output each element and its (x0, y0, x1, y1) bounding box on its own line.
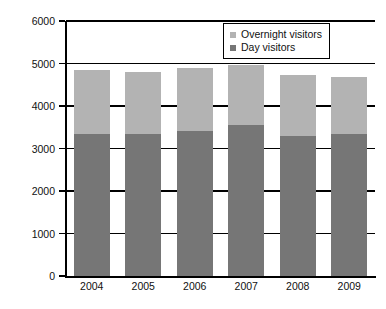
bar-segment-day-visitors[interactable] (331, 134, 367, 276)
bar-segment-overnight-visitors[interactable] (177, 68, 213, 131)
y-tick-mark (59, 63, 65, 65)
legend-item-day: Day visitors (230, 41, 322, 54)
y-tick-mark (59, 190, 65, 192)
bar-segment-overnight-visitors[interactable] (280, 75, 316, 135)
y-tick-mark (59, 20, 65, 22)
x-axis-tick-label: 2008 (273, 281, 323, 292)
y-axis-tick-label: 5000 (0, 59, 55, 70)
bar-group[interactable] (228, 21, 264, 276)
bar-segment-day-visitors[interactable] (74, 134, 110, 276)
overnight-swatch-icon (230, 32, 236, 38)
plot-area (66, 21, 375, 276)
bar-segment-overnight-visitors[interactable] (228, 65, 264, 125)
bar-group[interactable] (177, 21, 213, 276)
y-axis-tick-label: 2000 (0, 186, 55, 197)
bar-segment-day-visitors[interactable] (228, 125, 264, 276)
x-axis-tick-label: 2007 (221, 281, 271, 292)
bar-segment-overnight-visitors[interactable] (125, 72, 161, 134)
bar-group[interactable] (280, 21, 316, 276)
y-tick-mark (59, 233, 65, 235)
bar-segment-day-visitors[interactable] (280, 136, 316, 276)
bar-group[interactable] (331, 21, 367, 276)
x-axis-tick-label: 2004 (67, 281, 117, 292)
y-axis-tick-label: 4000 (0, 101, 55, 112)
y-tick-mark (59, 275, 65, 277)
legend-label-day: Day visitors (241, 42, 295, 53)
x-axis-tick-label: 2009 (324, 281, 374, 292)
x-axis-tick-label: 2005 (118, 281, 168, 292)
bar-group[interactable] (74, 21, 110, 276)
y-axis-tick-label: 6000 (0, 16, 55, 27)
x-axis-line (65, 276, 376, 278)
day-swatch-icon (230, 45, 236, 51)
y-axis-tick-label: 1000 (0, 229, 55, 240)
y-axis-tick-label: 3000 (0, 144, 55, 155)
y-tick-mark (59, 148, 65, 150)
bar-group[interactable] (125, 21, 161, 276)
y-tick-mark (59, 105, 65, 107)
x-axis-tick-label: 2006 (170, 281, 220, 292)
bar-segment-day-visitors[interactable] (125, 134, 161, 276)
bar-segment-overnight-visitors[interactable] (74, 70, 110, 133)
stacked-bar-chart: 0100020003000400050006000 20042005200620… (0, 0, 386, 309)
legend-label-overnight: Overnight visitors (241, 29, 322, 40)
bar-segment-day-visitors[interactable] (177, 131, 213, 276)
bar-segment-overnight-visitors[interactable] (331, 77, 367, 134)
y-axis-tick-label: 0 (0, 271, 55, 282)
chart-legend: Overnight visitors Day visitors (223, 23, 330, 59)
legend-item-overnight: Overnight visitors (230, 28, 322, 41)
